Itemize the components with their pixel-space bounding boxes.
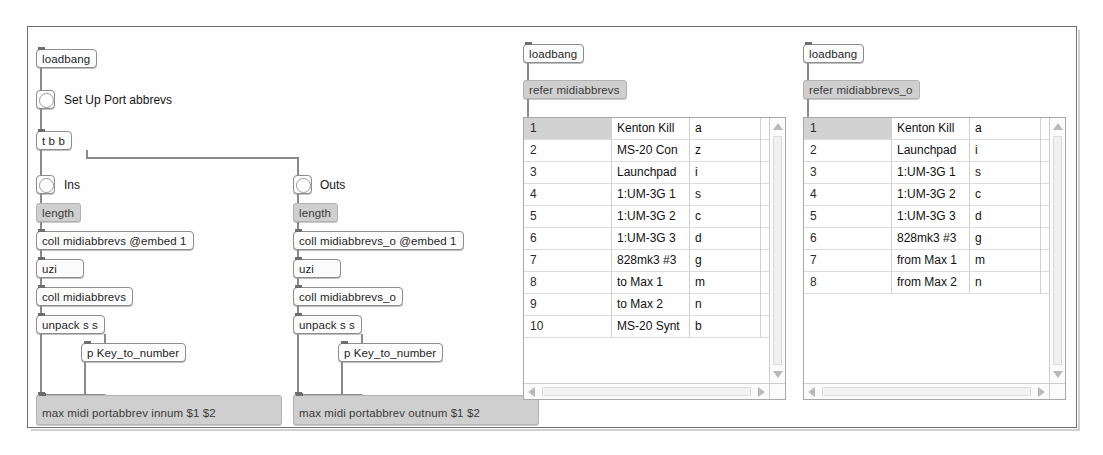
table-row[interactable]: 1Kenton Killa	[524, 118, 769, 140]
subpatch-object-left[interactable]: p Key_to_number	[81, 343, 186, 362]
scroll-down-icon[interactable]	[1053, 371, 1063, 378]
row-index-cell[interactable]: 4	[524, 184, 612, 205]
refer-message-coll1[interactable]: refer midiabbrevs	[523, 80, 627, 99]
horizontal-scrollbar[interactable]	[804, 383, 1049, 399]
row-name-cell[interactable]: 1:UM-3G 3	[892, 206, 970, 227]
vertical-scrollbar[interactable]	[769, 118, 785, 383]
row-value-cell[interactable]: n	[690, 294, 760, 315]
scroll-left-icon[interactable]	[808, 387, 815, 397]
table-row[interactable]: 2Launchpadi	[804, 140, 1049, 162]
row-index-cell[interactable]: 8	[804, 272, 892, 293]
row-index-cell[interactable]: 10	[524, 316, 612, 337]
scroll-left-icon[interactable]	[528, 387, 535, 397]
row-name-cell[interactable]: 828mk3 #3	[612, 250, 690, 271]
row-name-cell[interactable]: from Max 1	[892, 250, 970, 271]
row-value-cell[interactable]: g	[690, 250, 760, 271]
loadbang-object[interactable]: loadbang	[36, 49, 97, 68]
horizontal-scroll-thumb[interactable]	[542, 387, 751, 396]
uzi-object-left[interactable]: uzi	[36, 259, 84, 278]
table-row[interactable]: 61:UM-3G 3d	[524, 228, 769, 250]
row-index-cell[interactable]: 9	[524, 294, 612, 315]
row-index-cell[interactable]: 7	[804, 250, 892, 271]
row-name-cell[interactable]: MS-20 Con	[612, 140, 690, 161]
table-row[interactable]: 51:UM-3G 3d	[804, 206, 1049, 228]
row-index-cell[interactable]: 1	[524, 118, 612, 139]
table-row[interactable]: 3Launchpadi	[524, 162, 769, 184]
row-name-cell[interactable]: from Max 2	[892, 272, 970, 293]
row-name-cell[interactable]: to Max 1	[612, 272, 690, 293]
row-name-cell[interactable]: 1:UM-3G 2	[612, 206, 690, 227]
row-value-cell[interactable]: m	[690, 272, 760, 293]
row-value-cell[interactable]: b	[690, 316, 760, 337]
table-row[interactable]: 9to Max 2n	[524, 294, 769, 316]
row-value-cell[interactable]: n	[970, 272, 1040, 293]
horizontal-scrollbar[interactable]	[524, 383, 769, 399]
length-message-right[interactable]: length	[293, 203, 338, 222]
coll-embed-object-left[interactable]: coll midiabbrevs @embed 1	[36, 231, 194, 250]
row-value-cell[interactable]: d	[970, 206, 1040, 227]
coll-object-right[interactable]: coll midiabbrevs_o	[293, 287, 403, 306]
row-index-cell[interactable]: 6	[804, 228, 892, 249]
row-value-cell[interactable]: c	[970, 184, 1040, 205]
bang-ins[interactable]	[36, 175, 55, 194]
row-value-cell[interactable]: i	[690, 162, 760, 183]
row-name-cell[interactable]: 1:UM-3G 3	[612, 228, 690, 249]
loadbang-object-coll1[interactable]: loadbang	[523, 44, 584, 63]
table-row[interactable]: 31:UM-3G 1s	[804, 162, 1049, 184]
table-row[interactable]: 7from Max 1m	[804, 250, 1049, 272]
row-value-cell[interactable]: a	[690, 118, 760, 139]
row-name-cell[interactable]: 1:UM-3G 1	[892, 162, 970, 183]
row-name-cell[interactable]: Launchpad	[892, 140, 970, 161]
table-row[interactable]: 10MS-20 Syntb	[524, 316, 769, 338]
length-message-left[interactable]: length	[36, 203, 81, 222]
out-message-left[interactable]: max midi portabbrev innum $1 $2	[36, 395, 282, 425]
row-value-cell[interactable]: a	[970, 118, 1040, 139]
row-name-cell[interactable]: 1:UM-3G 1	[612, 184, 690, 205]
scroll-up-icon[interactable]	[1053, 123, 1063, 130]
row-name-cell[interactable]: Kenton Kill	[892, 118, 970, 139]
bang-outs[interactable]	[293, 175, 312, 194]
row-index-cell[interactable]: 2	[524, 140, 612, 161]
bang-setup[interactable]	[36, 90, 55, 109]
table-row[interactable]: 41:UM-3G 1s	[524, 184, 769, 206]
coll-embed-object-right[interactable]: coll midiabbrevs_o @embed 1	[293, 231, 464, 250]
coll-grid[interactable]: 1Kenton Killa2Launchpadi31:UM-3G 1s41:UM…	[804, 118, 1049, 383]
row-name-cell[interactable]: to Max 2	[612, 294, 690, 315]
coll-editor-midiabbrevs[interactable]: 1Kenton Killa2MS-20 Conz3Launchpadi41:UM…	[523, 117, 786, 400]
unpack-object-left[interactable]: unpack s s	[36, 315, 105, 334]
coll-object-left[interactable]: coll midiabbrevs	[36, 287, 133, 306]
row-index-cell[interactable]: 2	[804, 140, 892, 161]
coll-grid[interactable]: 1Kenton Killa2MS-20 Conz3Launchpadi41:UM…	[524, 118, 769, 383]
row-name-cell[interactable]: 1:UM-3G 2	[892, 184, 970, 205]
row-index-cell[interactable]: 8	[524, 272, 612, 293]
scroll-right-icon[interactable]	[1038, 387, 1045, 397]
row-value-cell[interactable]: g	[970, 228, 1040, 249]
row-value-cell[interactable]: i	[970, 140, 1040, 161]
subpatch-object-right[interactable]: p Key_to_number	[338, 343, 443, 362]
vertical-scroll-thumb[interactable]	[773, 136, 782, 365]
row-value-cell[interactable]: d	[690, 228, 760, 249]
table-row[interactable]: 1Kenton Killa	[804, 118, 1049, 140]
row-value-cell[interactable]: c	[690, 206, 760, 227]
vertical-scrollbar[interactable]	[1049, 118, 1065, 383]
row-name-cell[interactable]: 828mk3 #3	[892, 228, 970, 249]
trigger-object[interactable]: t b b	[36, 131, 72, 150]
table-row[interactable]: 41:UM-3G 2c	[804, 184, 1049, 206]
scroll-up-icon[interactable]	[773, 123, 783, 130]
row-index-cell[interactable]: 7	[524, 250, 612, 271]
row-index-cell[interactable]: 3	[804, 162, 892, 183]
table-row[interactable]: 7828mk3 #3g	[524, 250, 769, 272]
row-index-cell[interactable]: 3	[524, 162, 612, 183]
row-index-cell[interactable]: 6	[524, 228, 612, 249]
row-index-cell[interactable]: 4	[804, 184, 892, 205]
scroll-right-icon[interactable]	[758, 387, 765, 397]
refer-message-coll2[interactable]: refer midiabbrevs_o	[803, 80, 920, 99]
table-row[interactable]: 6828mk3 #3g	[804, 228, 1049, 250]
row-name-cell[interactable]: Kenton Kill	[612, 118, 690, 139]
row-value-cell[interactable]: m	[970, 250, 1040, 271]
row-name-cell[interactable]: MS-20 Synt	[612, 316, 690, 337]
loadbang-object-coll2[interactable]: loadbang	[803, 44, 864, 63]
row-name-cell[interactable]: Launchpad	[612, 162, 690, 183]
row-value-cell[interactable]: s	[690, 184, 760, 205]
row-value-cell[interactable]: z	[690, 140, 760, 161]
